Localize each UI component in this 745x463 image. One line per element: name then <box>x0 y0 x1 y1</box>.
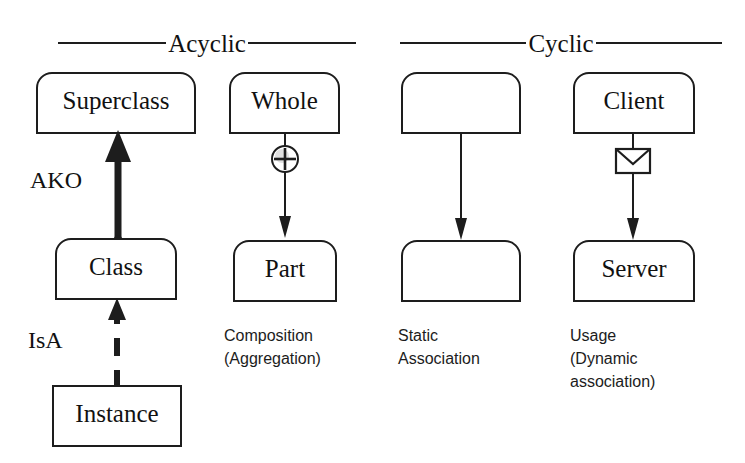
node-superclass: Superclass <box>36 72 196 134</box>
caption-static-association: Static Association <box>398 324 480 370</box>
node-whole: Whole <box>229 72 340 134</box>
header-rule-right <box>596 42 722 44</box>
uml-relationship-figure: Acyclic Cyclic Superclass AKO Class IsA … <box>0 0 745 463</box>
section-header-acyclic: Acyclic <box>58 30 356 56</box>
node-instance: Instance <box>52 385 182 447</box>
node-client-label: Client <box>603 88 664 114</box>
node-server-label: Server <box>601 256 666 282</box>
section-header-cyclic-label: Cyclic <box>526 31 595 56</box>
section-header-cyclic: Cyclic <box>400 30 722 56</box>
header-rule-left <box>58 42 166 44</box>
edge-ako <box>96 126 140 244</box>
node-class: Class <box>55 238 177 300</box>
circled-plus-icon <box>268 142 302 176</box>
node-server: Server <box>573 240 695 302</box>
edge-isa-label: IsA <box>28 328 63 352</box>
node-part-label: Part <box>265 256 305 282</box>
header-rule-left <box>400 42 526 44</box>
edge-isa <box>100 296 136 390</box>
node-class-label: Class <box>89 254 143 280</box>
caption-usage: Usage (Dynamic association) <box>570 324 655 393</box>
edge-ako-label: AKO <box>30 168 82 192</box>
node-client: Client <box>573 72 695 134</box>
envelope-icon <box>611 145 655 177</box>
edge-static-association <box>444 132 478 242</box>
section-header-acyclic-label: Acyclic <box>166 31 248 56</box>
node-part: Part <box>233 240 337 302</box>
node-instance-label: Instance <box>75 401 158 427</box>
node-association-source <box>401 72 521 134</box>
caption-composition: Composition (Aggregation) <box>224 324 321 370</box>
node-whole-label: Whole <box>251 88 318 114</box>
node-association-target <box>401 240 521 302</box>
header-rule-right <box>248 42 356 44</box>
node-superclass-label: Superclass <box>63 88 170 114</box>
